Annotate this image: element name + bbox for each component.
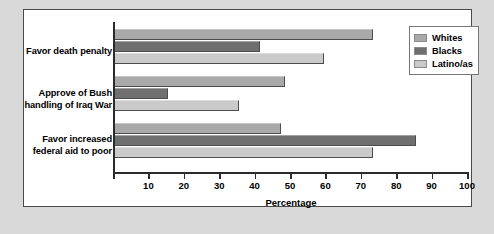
bar-whites-1 xyxy=(115,76,285,87)
bar-whites-0 xyxy=(115,29,373,40)
x-tick-80 xyxy=(396,174,398,179)
legend-label-blacks: Blacks xyxy=(432,46,462,56)
x-tick-100 xyxy=(467,174,469,179)
category-label-1: Approve of Bush handling of Iraq War xyxy=(24,88,112,111)
category-label-2-line-1: federal aid to poor xyxy=(24,146,112,158)
x-tick-label-10: 10 xyxy=(143,180,154,191)
x-axis: Percentage 102030405060708090100 xyxy=(113,172,469,212)
bar-blacks-1 xyxy=(115,88,168,99)
legend-item-2: Latino/as xyxy=(414,57,473,70)
legend-label-latinoas: Latino/as xyxy=(432,59,473,69)
x-tick-label-90: 90 xyxy=(426,180,437,191)
legend-swatch-latinoas xyxy=(414,60,427,68)
bar-latinoas-2 xyxy=(115,147,373,158)
x-tick-40 xyxy=(255,174,257,179)
x-tick-label-60: 60 xyxy=(320,180,331,191)
category-label-0-line-0: Favor death penalty xyxy=(24,46,112,58)
x-tick-label-30: 30 xyxy=(214,180,225,191)
legend-swatch-whites xyxy=(414,34,427,42)
x-tick-label-20: 20 xyxy=(179,180,190,191)
bar-latinoas-0 xyxy=(115,53,324,64)
x-tick-60 xyxy=(325,174,327,179)
x-tick-label-100: 100 xyxy=(459,180,475,191)
bar-blacks-0 xyxy=(115,41,260,52)
x-tick-label-80: 80 xyxy=(391,180,402,191)
x-tick-50 xyxy=(290,174,292,179)
legend: Whites Blacks Latino/as xyxy=(409,26,479,75)
x-axis-title: Percentage xyxy=(113,197,469,208)
category-label-2-line-0: Favor increased xyxy=(24,134,112,146)
x-tick-30 xyxy=(219,174,221,179)
bar-blacks-2 xyxy=(115,135,416,146)
category-label-0: Favor death penalty xyxy=(24,46,112,58)
x-tick-70 xyxy=(361,174,363,179)
bar-group-2 xyxy=(115,123,467,159)
x-tick-10 xyxy=(148,174,150,179)
x-tick-20 xyxy=(184,174,186,179)
category-label-2: Favor increased federal aid to poor xyxy=(24,134,112,157)
x-tick-label-50: 50 xyxy=(285,180,296,191)
bar-latinoas-1 xyxy=(115,100,239,111)
category-label-1-line-1: handling of Iraq War xyxy=(24,100,112,112)
figure-caption xyxy=(6,225,492,234)
x-tick-90 xyxy=(432,174,434,179)
x-tick-0 xyxy=(113,174,115,179)
legend-item-0: Whites xyxy=(414,31,473,44)
legend-item-1: Blacks xyxy=(414,44,473,57)
x-tick-label-70: 70 xyxy=(356,180,367,191)
x-tick-label-40: 40 xyxy=(249,180,260,191)
bar-group-1 xyxy=(115,76,467,112)
legend-label-whites: Whites xyxy=(432,33,462,43)
legend-swatch-blacks xyxy=(414,47,427,55)
chart-panel: Favor death penalty Approve of Bush hand… xyxy=(23,9,472,207)
figure-background: Favor death penalty Approve of Bush hand… xyxy=(0,0,494,234)
bar-whites-2 xyxy=(115,123,281,134)
category-axis-labels: Favor death penalty Approve of Bush hand… xyxy=(24,20,112,175)
category-label-1-line-0: Approve of Bush xyxy=(24,88,112,100)
